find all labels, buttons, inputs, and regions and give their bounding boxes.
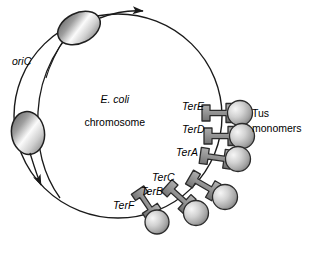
label-terE: TerE <box>182 101 204 113</box>
label-tus-line1: Tus <box>252 108 269 120</box>
ter-site-terA <box>199 146 251 172</box>
label-chromosome-species: E. coli <box>101 93 130 105</box>
fork-arrow-counterclockwise <box>30 153 41 185</box>
figure-canvas: oriC E. coli chromosome Tus monomers Ter… <box>0 0 309 254</box>
ter-site-terE <box>202 101 253 126</box>
label-terB: TerB <box>141 186 163 198</box>
replication-fork-lower <box>9 109 48 185</box>
label-terC: TerC <box>152 172 175 184</box>
replication-fork-upper <box>52 5 143 52</box>
label-tus-line2: monomers <box>252 123 302 135</box>
label-chromosome-word: chromosome <box>84 116 145 128</box>
ter-site-terD <box>204 124 255 149</box>
label-terD: TerD <box>182 124 205 136</box>
label-terA: TerA <box>176 147 198 159</box>
label-oric: oriC <box>12 56 31 68</box>
label-terF: TerF <box>113 200 135 212</box>
